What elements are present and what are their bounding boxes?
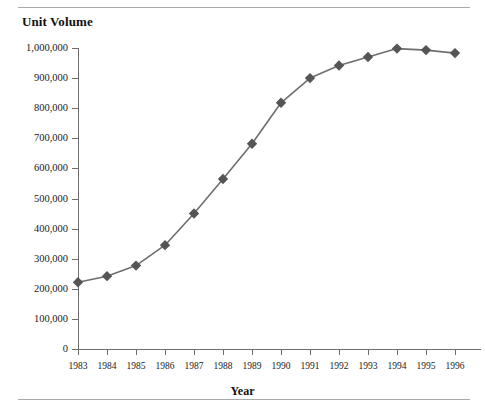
data-point-marker — [421, 45, 431, 55]
data-point-marker — [392, 43, 402, 53]
document-page: ·· ··· · Unit Volume 0100,000200,000300,… — [0, 0, 485, 410]
data-point-marker — [363, 52, 373, 62]
data-point-marker — [450, 48, 460, 58]
line-chart: 0100,000200,000300,000400,000500,000600,… — [0, 0, 485, 410]
series-line — [78, 49, 455, 283]
data-point-marker — [131, 260, 141, 270]
series-markers — [73, 43, 460, 287]
series-plot-area — [0, 0, 485, 410]
data-point-marker — [102, 271, 112, 281]
data-point-marker — [73, 277, 83, 287]
data-point-marker — [334, 60, 344, 70]
x-axis-title: Year — [0, 384, 485, 399]
